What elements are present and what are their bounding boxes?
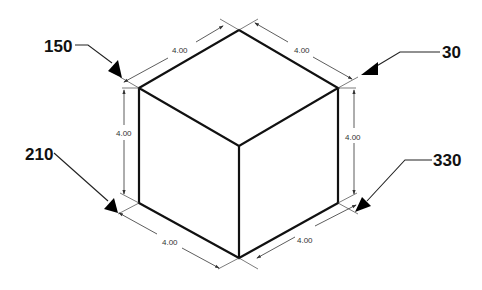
arrow-icon (104, 198, 118, 213)
angle-leader-30: 30 (361, 43, 461, 75)
angle-leader-150: 150 (44, 37, 122, 78)
dim-label-top-left: 4.00 (172, 46, 188, 55)
angle-label-150: 150 (44, 37, 72, 56)
angle-label-30: 30 (442, 43, 461, 62)
angle-label-210: 210 (25, 145, 53, 164)
angle-leader-210: 210 (25, 145, 118, 213)
arrow-icon (361, 62, 378, 75)
dimension-bottom-left: 4.00 (119, 213, 219, 268)
dimension-left-vertical: 4.00 (116, 90, 132, 194)
arrow-icon (108, 60, 122, 78)
dimension-top-right: 4.00 (255, 23, 352, 79)
dim-label-bottom-right: 4.00 (297, 236, 313, 245)
dim-label-left-vertical: 4.00 (116, 129, 132, 138)
angle-leader-330: 330 (355, 151, 461, 212)
dimension-right-vertical: 4.00 (345, 90, 361, 194)
dim-label-right-vertical: 4.00 (345, 133, 361, 142)
dimension-bottom-right: 4.00 (257, 205, 356, 258)
dimension-top-left: 4.00 (124, 26, 223, 82)
angle-label-330: 330 (433, 151, 461, 170)
cube-bottom-left-edge (139, 203, 239, 258)
cube-bottom-right-edge (239, 203, 338, 258)
dim-label-top-right: 4.00 (294, 46, 310, 55)
isometric-cube-diagram: 4.00 4.00 4.00 4.00 4.00 4.00 150 30 (0, 0, 482, 290)
cube (139, 30, 338, 258)
dim-label-bottom-left: 4.00 (162, 238, 178, 247)
